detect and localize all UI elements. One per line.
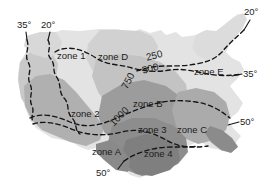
zone-a: zone A bbox=[92, 147, 121, 157]
deg-35-right: 35° bbox=[243, 69, 257, 79]
deg-20-topright: 20° bbox=[244, 7, 258, 17]
zone-2: zone 2 bbox=[71, 109, 100, 119]
deg-50-bottom: 50° bbox=[96, 168, 110, 178]
zone-4: zone 4 bbox=[144, 149, 173, 159]
zone-1: zone 1 bbox=[57, 51, 86, 61]
deg-50-right: 50° bbox=[240, 117, 254, 127]
us-climate-zone-map: zone 1zone Dzone Ezone 2zone Bzone 3zone… bbox=[0, 0, 274, 191]
zone-3: zone 3 bbox=[138, 125, 167, 135]
deg-35-topleft: 35° bbox=[17, 20, 31, 30]
us-northeast-lobe bbox=[192, 13, 247, 60]
zone-c: zone C bbox=[177, 125, 207, 135]
zone-d: zone D bbox=[98, 52, 128, 62]
deg-20-topleft: 20° bbox=[41, 20, 55, 30]
zone-e: zone E bbox=[194, 67, 224, 77]
zone-b: zone B bbox=[133, 99, 163, 109]
